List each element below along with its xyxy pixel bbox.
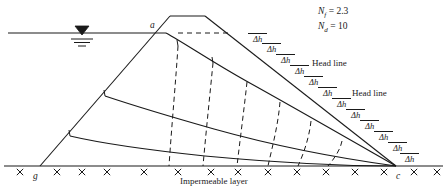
head-drop-label: Δh: [318, 87, 337, 98]
equipotential-6: [328, 141, 342, 166]
head-drop-label: Δh: [346, 109, 365, 120]
head-drop-label: Δh: [290, 65, 309, 76]
point-label-g: g: [33, 171, 38, 181]
equipotential-4: [268, 102, 280, 166]
flow-net-parameters: Nf = 2.3 Nd = 10: [318, 5, 348, 35]
flow-line-3: [70, 136, 396, 166]
point-label-a: a: [150, 20, 155, 30]
head-drop-label: Δh: [304, 76, 323, 87]
head-drop-label: Δh: [332, 98, 351, 109]
head-drop-label: Δh: [360, 120, 379, 131]
impermeable-layer-caption: Impermeable layer: [180, 176, 248, 186]
equipotential-1: [169, 46, 178, 166]
head-line-label-1: Head line: [312, 58, 347, 68]
flow-line-tick-marks: [69, 40, 213, 136]
nd-line: Nd = 10: [318, 20, 348, 35]
flow-line-2: [105, 96, 396, 166]
nf-line: Nf = 2.3: [318, 5, 348, 20]
head-drop-label: Δh: [276, 54, 295, 65]
equipotential-2: [203, 63, 213, 166]
point-label-c: c: [396, 171, 400, 181]
nd-value: = 10: [328, 21, 348, 31]
flow-net-diagram: Nf = 2.3 Nd = 10 a g c Δh Δh Δh Δh Δh Δh…: [0, 0, 447, 194]
upstream-slope: [40, 16, 170, 166]
impermeable-hatch-marks: [17, 169, 440, 175]
head-drop-label: Δh: [262, 43, 281, 54]
head-drop-label: Δh: [374, 131, 393, 142]
equipotential-3: [237, 82, 247, 166]
equipotential-5: [298, 121, 311, 166]
head-line-label-2: Head line: [352, 88, 387, 98]
nf-value: = 2.3: [326, 6, 348, 16]
head-drop-label: Δh: [248, 33, 267, 44]
head-drop-label: Δh: [400, 153, 419, 164]
head-drop-label: Δh: [388, 142, 407, 153]
dam-outline: [40, 16, 396, 166]
water-table-icon: [71, 26, 93, 46]
